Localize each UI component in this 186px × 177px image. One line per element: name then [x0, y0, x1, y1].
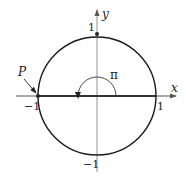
point-top [95, 32, 99, 36]
y-pos-tick-label: 1 [88, 22, 95, 33]
point-P [36, 94, 40, 98]
x-pos-tick-label: 1 [157, 101, 164, 112]
unit-circle-diagram: y x 1 −1 1 −1 P π [0, 0, 186, 177]
y-neg-tick-label: −1 [83, 159, 99, 170]
point-P-label: P [18, 66, 26, 78]
y-axis-label: y [102, 8, 109, 20]
x-neg-tick-label: −1 [24, 101, 40, 112]
P-pointer-arrow [24, 79, 36, 93]
x-axis-label: x [171, 82, 178, 94]
angle-pi-label: π [110, 69, 118, 81]
